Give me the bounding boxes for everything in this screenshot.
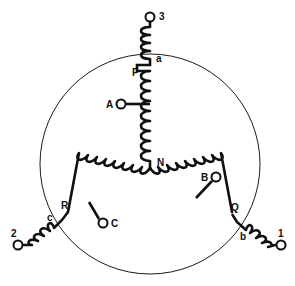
label-star-point-N: N (157, 157, 164, 168)
terminal-circle-3[interactable] (146, 13, 155, 22)
terminal-circle-2[interactable] (14, 241, 23, 250)
lead-wire-R-to-c (54, 212, 68, 228)
label-terminal-3: 3 (159, 11, 165, 22)
coil-b-to-1 (246, 225, 275, 247)
label-terminal-A: A (106, 99, 113, 110)
coil-c-to-2 (24, 223, 54, 245)
lead-wire-a-to-P (137, 59, 150, 71)
terminal-circle-C[interactable] (99, 219, 108, 228)
label-node-P: P (132, 67, 139, 78)
three-phase-winding-diagram: N P Q R a b c 3 1 2 A B C (0, 0, 295, 286)
label-lead-c: c (47, 212, 53, 223)
label-node-R: R (61, 200, 69, 211)
label-lead-a: a (156, 53, 162, 64)
tap-wire-B (196, 181, 212, 198)
winding-diagram-root: N P Q R a b c 3 1 2 A B C (0, 0, 295, 286)
terminal-circle-1[interactable] (277, 241, 286, 250)
tap-wire-C (89, 202, 99, 219)
label-lead-b: b (240, 231, 246, 242)
terminal-circle-B[interactable] (212, 173, 221, 182)
label-terminal-C: C (111, 218, 118, 229)
label-terminal-B: B (201, 172, 208, 183)
label-terminal-2: 2 (11, 228, 17, 239)
label-terminal-1: 1 (278, 228, 284, 239)
label-node-Q: Q (231, 202, 239, 213)
terminal-circle-A[interactable] (117, 100, 126, 109)
coil-N-to-R (68, 153, 150, 212)
coil-P-to-N (141, 71, 150, 168)
